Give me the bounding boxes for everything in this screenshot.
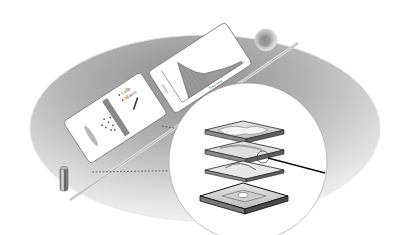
cell-sphere-icon (255, 29, 277, 51)
diagram-canvas: Cells Matrix Count Time (ms) (0, 0, 395, 235)
sample-vial-icon (60, 166, 68, 191)
